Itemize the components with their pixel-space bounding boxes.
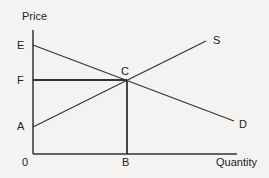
demand-curve: [33, 45, 234, 121]
point-C-label: C: [121, 66, 129, 77]
point-A-label: A: [17, 121, 24, 132]
x-axis-label: Quantity: [216, 157, 257, 168]
point-F-label: F: [17, 75, 24, 86]
supply-curve: [33, 41, 206, 127]
supply-demand-diagram: [0, 0, 269, 178]
y-axis-label: Price: [22, 11, 47, 22]
demand-curve-label: D: [239, 119, 247, 130]
point-B-label: B: [122, 157, 129, 168]
origin-label: 0: [22, 157, 28, 168]
supply-curve-label: S: [213, 35, 220, 46]
point-E-label: E: [17, 40, 24, 51]
